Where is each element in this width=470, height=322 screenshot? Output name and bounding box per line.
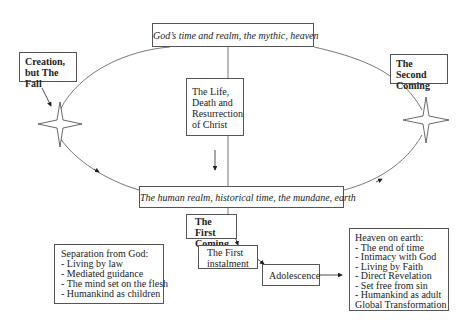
first-coming-line: The First — [195, 216, 228, 238]
christ-line: Death and — [192, 97, 238, 108]
first-coming-box: The First Coming — [186, 214, 237, 239]
adolescence-box: Adolescence — [262, 264, 320, 286]
heaven-on-earth-footer: Global Transformation — [355, 300, 443, 310]
creation-box: Creation, but The Fall — [19, 52, 77, 82]
human-realm-box: The human realm, historical time, the mu… — [139, 186, 344, 208]
lower-arc-left — [60, 138, 139, 190]
left-star-icon — [38, 102, 82, 147]
first-instalment-line: The First — [207, 247, 249, 258]
right-star-icon — [403, 97, 449, 143]
upper-arc-right — [314, 47, 390, 76]
adolescence-label: Adolescence — [269, 270, 320, 281]
lower-arc-right — [344, 135, 422, 190]
heaven-realm-label: God’s time and realm, the mythic, heaven — [153, 30, 319, 41]
separation-box: Separation from God: - Living by law - M… — [54, 244, 164, 304]
second-coming-box: The Second Coming — [390, 54, 448, 84]
second-coming-line: Coming — [396, 80, 442, 91]
heaven-realm-box: God’s time and realm, the mythic, heaven — [152, 23, 314, 47]
heaven-on-earth-box: Heaven on earth: - The end of time - Int… — [349, 228, 449, 311]
separation-item: - Humankind as children — [61, 289, 157, 299]
first-instalment-box: The First instalment — [198, 245, 258, 269]
first-instalment-line: instalment — [207, 258, 249, 269]
second-coming-line: The Second — [396, 58, 442, 80]
christ-line: of Christ — [192, 119, 238, 130]
human-realm-label: The human realm, historical time, the mu… — [140, 192, 356, 203]
christ-box: The Life, Death and Resurrection of Chri… — [186, 78, 244, 136]
christ-line: Resurrection — [192, 108, 238, 119]
christ-line: The Life, — [192, 86, 238, 97]
creation-line: but The Fall — [25, 67, 71, 89]
creation-line: Creation, — [25, 56, 71, 67]
